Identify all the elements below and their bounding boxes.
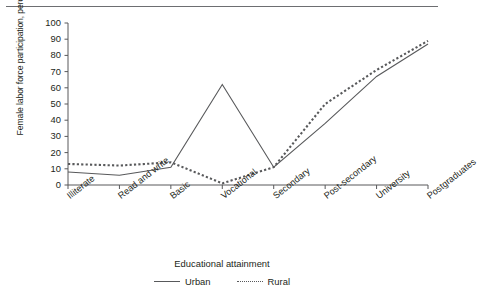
- x-axis-title: Educational attainment: [0, 258, 444, 269]
- legend-swatch-dashed-line: [237, 281, 263, 282]
- chart-legend: Urban Rural: [0, 276, 444, 287]
- legend-label-urban: Urban: [185, 276, 211, 287]
- legend-item-urban: Urban: [154, 276, 211, 287]
- legend-swatch-solid-line: [154, 281, 180, 282]
- legend-item-rural: Rural: [237, 276, 290, 287]
- legend-label-rural: Rural: [268, 276, 290, 287]
